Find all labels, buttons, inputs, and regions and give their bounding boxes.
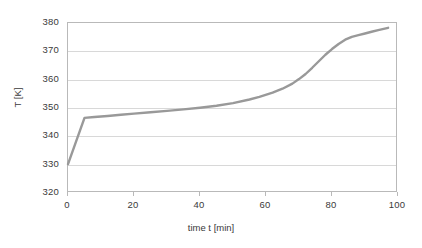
x-tick-label-20: 20 [113, 199, 153, 210]
series-line-temperature [68, 23, 398, 193]
y-tick-label-350: 350 [19, 101, 59, 112]
temperature-time-chart: T [K] 320330340350360370380 020406080100… [0, 0, 422, 248]
x-tick-mark-80 [331, 192, 332, 196]
y-tick-label-380: 380 [19, 16, 59, 27]
x-tick-label-40: 40 [179, 199, 219, 210]
x-tick-mark-40 [199, 192, 200, 196]
y-tick-label-330: 330 [19, 158, 59, 169]
x-tick-label-100: 100 [377, 199, 417, 210]
y-tick-label-360: 360 [19, 73, 59, 84]
y-tick-label-370: 370 [19, 44, 59, 55]
x-tick-mark-0 [67, 192, 68, 196]
x-tick-label-0: 0 [47, 199, 87, 210]
y-tick-label-320: 320 [19, 186, 59, 197]
x-tick-label-80: 80 [311, 199, 351, 210]
x-tick-mark-20 [133, 192, 134, 196]
x-axis-title: time t [min] [0, 222, 422, 233]
plot-area [67, 22, 397, 192]
y-tick-label-340: 340 [19, 129, 59, 140]
x-tick-label-60: 60 [245, 199, 285, 210]
x-tick-mark-60 [265, 192, 266, 196]
series-polyline [68, 28, 388, 164]
x-tick-mark-100 [397, 192, 398, 196]
